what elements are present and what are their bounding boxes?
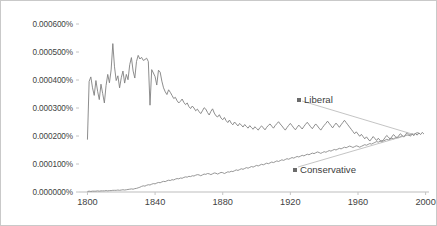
x-axis-tick-label: 1800	[77, 197, 97, 207]
ngram-chart: 0.000600%0.000500%0.000400%0.000300%0.00…	[0, 0, 437, 226]
legend-item-conservative[interactable]: Conservative	[293, 164, 356, 175]
x-axis-tick-label: 2000	[415, 197, 435, 207]
x-axis-tick-label: 1960	[348, 197, 368, 207]
legend-item-liberal[interactable]: Liberal	[297, 94, 333, 105]
x-axis-tick-label: 1920	[280, 197, 300, 207]
legend-swatch-conservative	[293, 168, 297, 172]
legend-label-liberal: Liberal	[304, 94, 333, 105]
x-axis-tick-label: 1880	[212, 197, 232, 207]
legend-swatch-liberal	[297, 98, 301, 102]
x-axis-labels: 180018401880192019602000	[1, 1, 437, 226]
x-axis-tick-label: 1840	[145, 197, 165, 207]
legend-label-conservative: Conservative	[300, 164, 356, 175]
